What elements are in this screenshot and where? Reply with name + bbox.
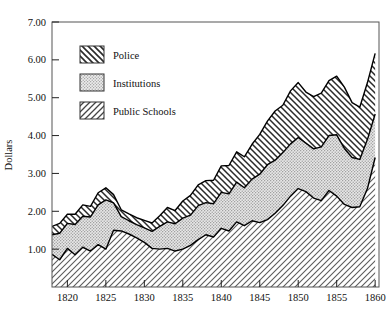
x-tick-label: 1850 (288, 292, 309, 303)
legend-label-police: Police (113, 50, 140, 61)
y-tick-label: 6.00 (28, 54, 46, 65)
legend-swatch-institutions (80, 74, 104, 91)
y-tick-label: 1.00 (28, 244, 46, 255)
y-tick-label: 5.00 (28, 92, 46, 103)
legend-swatch-police (80, 46, 104, 63)
y-tick-label: 7.00 (28, 17, 46, 28)
legend-swatch-public-schools (80, 102, 104, 119)
x-tick-label: 1845 (249, 292, 270, 303)
x-tick-label: 1830 (134, 292, 155, 303)
stacked-area-chart: 1.002.003.004.005.006.007.00 18201825183… (0, 0, 391, 316)
y-axis-title: Dollars (3, 140, 14, 171)
y-tick-label: 2.00 (28, 206, 46, 217)
y-tick-label: 3.00 (28, 168, 46, 179)
x-tick-label: 1835 (172, 292, 193, 303)
legend-label-public-schools: Public Schools (113, 106, 176, 117)
legend-label-institutions: Institutions (113, 78, 160, 89)
x-axis-ticks: 182018251830183518401845185018551860 (57, 280, 386, 303)
x-tick-label: 1840 (211, 292, 232, 303)
x-tick-label: 1860 (365, 292, 386, 303)
y-tick-label: 4.00 (28, 130, 46, 141)
x-tick-label: 1855 (326, 292, 347, 303)
x-tick-label: 1825 (95, 292, 116, 303)
x-tick-label: 1820 (57, 292, 78, 303)
chart-canvas: 1.002.003.004.005.006.007.00 18201825183… (0, 0, 391, 316)
